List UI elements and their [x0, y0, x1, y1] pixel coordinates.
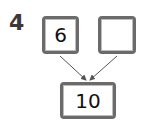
whole-value: 10 — [75, 89, 100, 113]
arrow-left-icon — [60, 56, 86, 80]
whole-box: 10 — [60, 82, 116, 119]
arrow-right-icon — [90, 56, 117, 80]
